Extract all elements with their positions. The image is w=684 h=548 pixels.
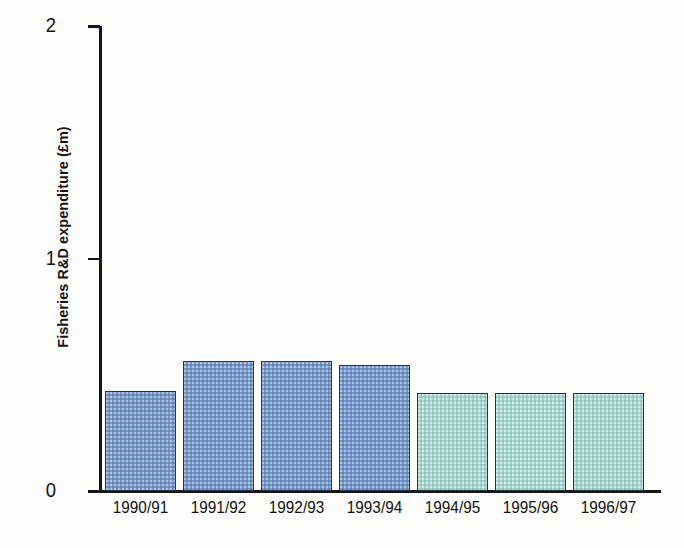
bar-1996-97[interactable] (573, 26, 644, 491)
bar-1991-92[interactable] (183, 26, 254, 491)
x-tick-label-1992-93: 1992/93 (265, 499, 329, 516)
x-tick-label-1995-96: 1995/96 (499, 499, 563, 516)
bar-rect (573, 393, 644, 491)
x-tick-label-1996-97: 1996/97 (577, 499, 641, 516)
x-tick-label-1990-91: 1990/91 (109, 499, 173, 516)
bar-1990-91[interactable] (105, 26, 176, 491)
y-tick-label-2: 2 (19, 15, 56, 35)
bar-rect (183, 361, 254, 491)
bar-1993-94[interactable] (339, 26, 410, 491)
bar-1994-95[interactable] (417, 26, 488, 491)
y-tick-label-0: 0 (19, 480, 56, 500)
x-tick-label-1994-95: 1994/95 (421, 499, 485, 516)
y-axis-title: Fisheries R&D expenditure (£m) (54, 98, 72, 377)
bar-rect (495, 393, 566, 491)
bar-chart-figure: Fisheries R&D expenditure (£m) 210 1990/… (0, 0, 684, 548)
plot-area (99, 26, 661, 491)
x-tick-label-1993-94: 1993/94 (343, 499, 407, 516)
bar-rect (105, 391, 176, 491)
bar-1995-96[interactable] (495, 26, 566, 491)
x-tick-label-1991-92: 1991/92 (187, 499, 251, 516)
bar-1992-93[interactable] (261, 26, 332, 491)
bar-rect (339, 365, 410, 491)
bar-rect (261, 361, 332, 491)
bar-rect (417, 393, 488, 491)
y-tick-label-1: 1 (19, 248, 56, 268)
